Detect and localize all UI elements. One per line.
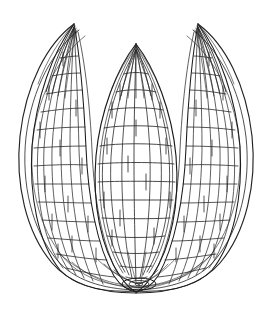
figure-container: Gored sphere wireframe sketch Hand-drawn… <box>0 0 272 315</box>
gored-sphere-figure: Gored sphere wireframe sketch Hand-drawn… <box>0 0 272 315</box>
